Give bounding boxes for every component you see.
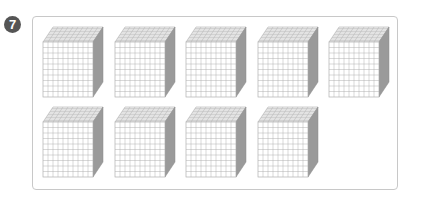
thousand-cube bbox=[42, 26, 104, 98]
thousand-cube bbox=[328, 26, 390, 98]
problem-number-badge: 7 bbox=[4, 16, 21, 33]
thousand-cube bbox=[185, 26, 247, 98]
thousand-cube bbox=[114, 26, 176, 98]
thousand-cube bbox=[42, 106, 104, 178]
thousand-cube bbox=[257, 106, 319, 178]
thousand-cube bbox=[185, 106, 247, 178]
thousand-cube bbox=[114, 106, 176, 178]
thousand-cube bbox=[257, 26, 319, 98]
